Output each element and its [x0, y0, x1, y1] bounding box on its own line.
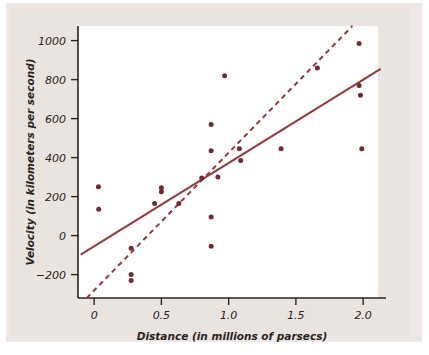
data-point: [129, 278, 134, 283]
x-tick-label: 0.5: [153, 309, 171, 322]
y-tick-label: 1000: [38, 35, 66, 48]
data-point: [176, 201, 181, 206]
data-point: [96, 184, 101, 189]
x-tick-label: 1.5: [287, 309, 305, 322]
x-tick-label: 0: [91, 309, 98, 322]
data-point: [279, 146, 284, 151]
figure-container: −20002004006008001000 00.51.01.52.0 Dist…: [0, 0, 429, 355]
data-point: [159, 189, 164, 194]
data-point: [152, 201, 157, 206]
data-point: [209, 244, 214, 249]
x-axis-title: Distance (in millions of parsecs): [137, 330, 327, 342]
solid-trend-line: [81, 69, 381, 255]
data-point: [315, 65, 320, 70]
data-point: [199, 176, 204, 181]
x-axis-ticks: 00.51.01.52.0: [91, 298, 372, 322]
data-point: [96, 207, 101, 212]
data-point: [358, 93, 363, 98]
x-tick-label: 1.0: [220, 309, 238, 322]
data-point: [129, 246, 134, 251]
y-axis-ticks: −20002004006008001000: [36, 35, 78, 282]
data-point: [222, 73, 227, 78]
dashed-trend-line: [87, 26, 353, 298]
fit-lines-group: [81, 26, 381, 298]
data-point: [209, 148, 214, 153]
y-tick-label: 200: [45, 191, 66, 204]
data-point: [359, 146, 364, 151]
data-point: [209, 215, 214, 220]
y-tick-label: 800: [45, 74, 66, 87]
data-point: [357, 83, 362, 88]
y-tick-label: 0: [59, 230, 66, 243]
x-tick-label: 2.0: [354, 309, 372, 322]
y-axis-title: Velocity (in kilometers per second): [24, 59, 36, 266]
data-point: [357, 41, 362, 46]
y-tick-label: 400: [45, 152, 66, 165]
y-tick-label: 600: [45, 113, 66, 126]
data-point: [215, 175, 220, 180]
data-point: [237, 146, 242, 151]
y-tick-label: −200: [36, 269, 66, 282]
scatter-chart: −20002004006008001000 00.51.01.52.0 Dist…: [0, 0, 429, 355]
data-point: [238, 158, 243, 163]
data-point: [129, 272, 134, 277]
data-point: [209, 122, 214, 127]
